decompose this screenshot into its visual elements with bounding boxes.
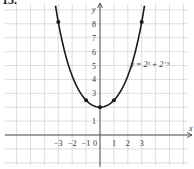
x-axis-label: x	[188, 124, 193, 133]
svg-text:−3: −3	[54, 139, 63, 148]
svg-text:−2: −2	[68, 139, 77, 148]
svg-text:2: 2	[126, 139, 130, 148]
svg-text:4: 4	[92, 75, 96, 84]
svg-text:1: 1	[112, 139, 116, 148]
svg-text:3: 3	[140, 139, 144, 148]
svg-text:6: 6	[92, 48, 96, 57]
svg-text:−1: −1	[82, 139, 91, 148]
svg-text:8: 8	[92, 20, 96, 29]
svg-text:0: 0	[93, 139, 97, 148]
y-axis-label: y	[91, 5, 96, 14]
svg-text:1: 1	[92, 117, 96, 126]
function-label: y = 2ˣ + 2⁻ˣ	[130, 60, 171, 69]
tick-labels: −3−2−101231345678	[54, 20, 144, 148]
function-graph: −3−2−101231345678 y = 2ˣ + 2⁻ˣ x y	[0, 0, 194, 169]
svg-text:7: 7	[92, 34, 96, 43]
axes	[5, 3, 192, 167]
svg-text:5: 5	[92, 62, 96, 71]
svg-text:3: 3	[92, 89, 96, 98]
